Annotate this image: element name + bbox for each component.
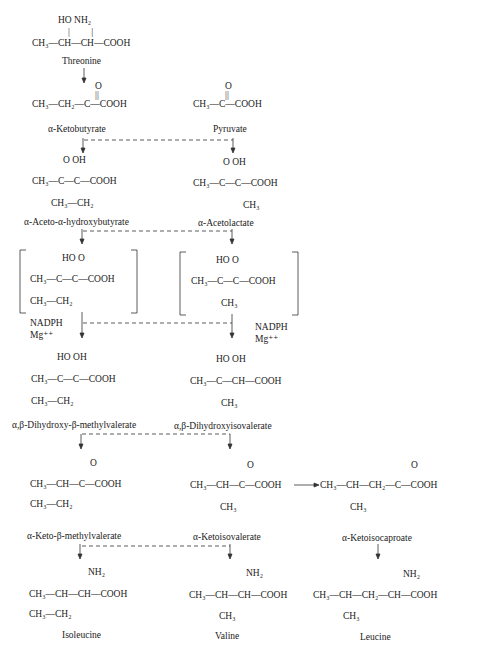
ethyl-group: CH₃—CH₂ [30,296,73,307]
dihydroxy-methylvalerate-label: α,β-Dihydroxy-β-methylvalerate [12,420,136,431]
keto-methylvalerate-label: α-Keto-β-methylvalerate [27,531,121,542]
threonine-formula: CH₃—CH—CH—COOH [32,38,130,49]
threonine-label: Threonine [62,56,101,67]
valine-label: Valine [215,631,239,642]
cofactor-mg-right: Mg⁺⁺ [255,334,278,345]
cofactor-mg-left: Mg⁺⁺ [30,330,53,341]
threonine-substituents: HO NH₂ [58,15,91,26]
bracket-right-open [180,252,186,315]
amino-group: NH₂ [403,569,420,580]
isoleucine-label: Isoleucine [62,630,101,641]
methyl-group: CH₃ [243,200,260,211]
ethyl-group: CH₃—CH₂ [51,198,94,209]
substituents: O OH [223,157,246,168]
aceto-hydroxybutyrate-formula: CH₃—C—C—COOH [32,176,117,187]
substituents: O OH [63,155,86,166]
ethyl-group: CH₃—CH₂ [31,396,74,407]
isoleucine-formula: CH₃—CH—CH—COOH [29,589,127,600]
oxygen: O [90,458,97,469]
bracket-left-open [20,250,26,313]
bond-mark: | | [68,27,93,38]
ketobutyrate-formula: CH₃—CH₂—C—COOH [32,99,127,110]
substituents: HO OH [216,354,246,365]
acetolactate-label: α-Acetolactate [198,218,254,229]
acetolactate-formula: CH₃—C—C—COOH [193,178,278,189]
ketoisovalerate-label: α-Ketoisovalerate [193,532,261,543]
cofactor-nadph-right: NADPH [255,322,288,333]
methyl-group: CH₃ [221,298,238,309]
methyl-group: CH₃ [343,611,360,622]
aceto-hydroxybutyrate-label: α-Aceto-α-hydroxybutyrate [24,217,129,228]
pyruvate-label: Pyruvate [213,124,247,135]
dihydroxyisovalerate-formula: CH₃—C—CH—COOH [190,376,281,387]
bracket-left-close [131,250,137,313]
leucine-label: Leucine [360,632,391,643]
valine-formula: CH₃—CH—CH—COOH [189,590,287,601]
dihydroxyisovalerate-label: α,β-Dihydroxyisovalerate [174,421,272,432]
methyl-group: CH₃ [221,398,238,409]
substituents: HO O [216,255,239,266]
ketoisocaproate-formula: CH₃—CH—CH₂—C—COOH [320,480,437,491]
pyruvate-formula: CH₃—C—COOH [193,99,262,110]
amino-group: NH₂ [246,568,263,579]
bracket-right-close [292,252,298,315]
dihydroxy-methylvalerate-formula: CH₃—C—C—COOH [31,374,116,385]
methyl-group: CH₃ [219,611,236,622]
oxygen: O [411,460,418,471]
intermediate-left-formula: CH₃—C—C—COOH [30,274,115,285]
substituents: HO O [62,253,85,264]
oxygen: O [247,460,254,471]
substituents: HO OH [57,352,87,363]
ketobutyrate-label: α-Ketobutyrate [48,124,106,135]
ketoisovalerate-formula: CH₃—CH—C—COOH [190,480,281,491]
amino-group: NH₂ [88,567,105,578]
methyl-group: CH₃ [220,502,237,513]
cofactor-nadph-left: NADPH [30,318,63,329]
ethyl-group: CH₃—CH₂ [30,499,73,510]
intermediate-right-formula: CH₃—C—C—COOH [191,276,276,287]
leucine-formula: CH₃—CH—CH₂—CH—COOH [313,590,437,601]
ethyl-group: CH₃—CH₂ [29,609,72,620]
methyl-group: CH₃ [350,502,367,513]
ketoisocaproate-label: α-Ketoisocaproate [342,533,412,544]
keto-methylvalerate-formula: CH₃—CH—C—COOH [30,479,121,490]
